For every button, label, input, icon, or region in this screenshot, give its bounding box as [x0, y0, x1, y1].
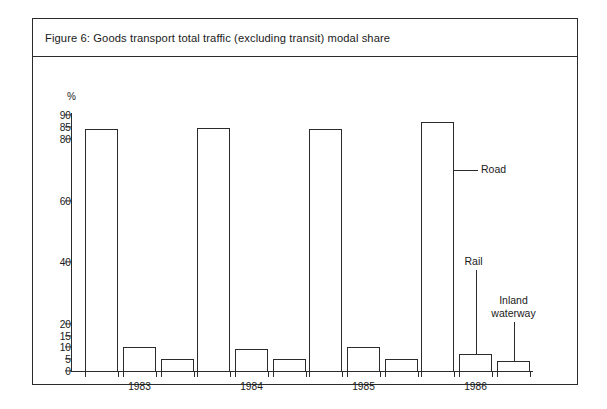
y-axis-ticks: 051015204060808590: [33, 57, 71, 384]
annotation-inland-waterway-line1: Inland: [499, 294, 528, 306]
bar-1986-inland-waterway: [497, 361, 530, 372]
annotation-inland-waterway: Inland waterway: [491, 294, 535, 319]
bar-1983-inland-waterway: [161, 359, 194, 372]
x-axis-tick-mark: [268, 371, 269, 377]
y-axis-tick-mark: [65, 126, 71, 127]
y-axis-tick-mark: [65, 200, 71, 201]
figure-frame: Figure 6: Goods transport total traffic …: [32, 18, 578, 385]
inland-waterway-leader-line: [514, 322, 515, 361]
page-title: Figure 6: Goods transport total traffic …: [33, 32, 390, 44]
y-axis-tick-mark: [65, 358, 71, 359]
x-axis-label-1985: 1985: [352, 381, 375, 392]
y-axis-tick-mark: [65, 138, 71, 139]
y-axis-tick-mark: [65, 370, 71, 371]
y-axis-tick-mark: [65, 346, 71, 347]
y-axis-tick-mark: [65, 261, 71, 262]
y-axis-tick-mark: [65, 323, 71, 324]
x-axis-label-1984: 1984: [240, 381, 263, 392]
x-axis-tick-mark: [156, 371, 157, 377]
bar-1984-inland-waterway: [273, 359, 306, 372]
x-axis-tick-mark: [380, 371, 381, 377]
figure-title-band: Figure 6: Goods transport total traffic …: [33, 19, 577, 57]
annotation-road: Road: [481, 163, 506, 176]
rail-leader-line: [476, 270, 477, 354]
annotation-inland-waterway-line2: waterway: [491, 307, 535, 319]
bar-1983-road: [85, 129, 118, 372]
bar-1984-road: [197, 128, 230, 372]
x-axis-tick-mark: [530, 371, 531, 377]
bar-1985-rail: [347, 347, 380, 372]
y-axis-line: [71, 113, 72, 372]
road-leader-line: [454, 170, 478, 171]
y-axis-tick-mark: [65, 335, 71, 336]
bar-1985-inland-waterway: [385, 359, 418, 372]
x-axis-label-1986: 1986: [464, 381, 487, 392]
x-axis-tick-mark: [342, 371, 343, 377]
x-axis-tick-mark: [454, 371, 455, 377]
bar-1986-rail: [459, 354, 492, 372]
annotation-rail: Rail: [465, 255, 483, 268]
x-axis-tick-mark: [230, 371, 231, 377]
bar-1986-road: [421, 122, 454, 372]
chart-plot-area: % 051015204060808590 1983198419851986 Ro…: [33, 57, 577, 384]
x-axis-tick-mark: [194, 371, 195, 377]
bar-1983-rail: [123, 347, 156, 372]
x-axis-tick-mark: [418, 371, 419, 377]
x-axis-tick-mark: [118, 371, 119, 377]
x-axis-tick-mark: [492, 371, 493, 377]
bar-1985-road: [309, 129, 342, 372]
x-axis-label-1983: 1983: [128, 381, 151, 392]
x-axis-tick-mark: [306, 371, 307, 377]
y-axis-tick-mark: [65, 114, 71, 115]
bar-1984-rail: [235, 349, 268, 372]
